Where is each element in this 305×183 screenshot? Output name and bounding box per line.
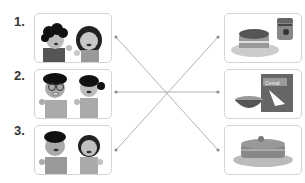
pancakes-stack-icon xyxy=(225,126,301,174)
boy-and-girl-waving-icon xyxy=(35,14,111,62)
boy-with-glasses-and-girl-icon xyxy=(35,70,111,118)
boy-and-girl-smiling-icon xyxy=(35,126,111,174)
left-image-1[interactable] xyxy=(34,13,112,63)
item-number-2: 2. xyxy=(14,68,25,83)
cereal-bowl-and-box-icon: Cereal xyxy=(225,70,301,118)
item-number-1: 1. xyxy=(14,14,25,29)
toast-with-jam-icon xyxy=(225,14,301,62)
right-image-3[interactable] xyxy=(224,125,302,175)
left-image-3[interactable] xyxy=(34,125,112,175)
svg-text:Cereal: Cereal xyxy=(265,80,280,86)
item-number-3: 3. xyxy=(14,123,25,138)
left-image-2[interactable] xyxy=(34,69,112,119)
right-image-1[interactable] xyxy=(224,13,302,63)
right-image-2[interactable]: Cereal xyxy=(224,69,302,119)
